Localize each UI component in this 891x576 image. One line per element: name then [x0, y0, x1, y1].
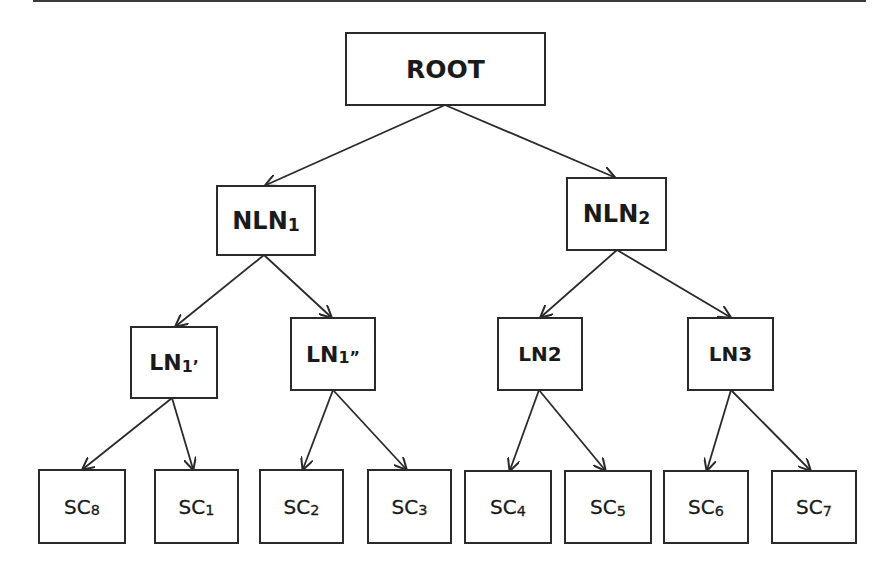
edge-ln3-sc7 — [731, 390, 810, 470]
node-nln1-label: NLN1 — [232, 207, 299, 235]
node-ln2-text: LN2 — [518, 342, 561, 366]
node-sc2-text: SC — [284, 495, 311, 519]
node-sc1-subscript: 1 — [205, 502, 214, 518]
node-nln2-text: NLN — [583, 200, 638, 228]
node-sc7: SC7 — [771, 470, 857, 544]
node-ln2: LN2 — [497, 317, 583, 391]
edge-ln2-sc4 — [510, 390, 539, 470]
node-sc5: SC5 — [564, 470, 652, 544]
node-ln1-prime-subscript: 1’ — [182, 357, 199, 376]
node-sc8-label: SC8 — [64, 495, 100, 519]
edge-nln1-ln1pp — [264, 255, 331, 317]
node-sc2-label: SC2 — [284, 495, 320, 519]
edge-ln1pp-sc2 — [303, 390, 333, 469]
node-ln1-double-prime: LN1” — [290, 317, 376, 391]
node-ln1-double-prime-text: LN — [306, 342, 338, 367]
edge-ln2-sc5 — [539, 390, 605, 470]
node-sc3-subscript: 3 — [418, 502, 427, 518]
node-ln3-label: LN3 — [709, 342, 752, 366]
node-sc6-subscript: 6 — [715, 503, 724, 519]
edge-ln3-sc6 — [707, 390, 731, 470]
node-sc4-subscript: 4 — [517, 503, 526, 519]
node-nln1-subscript: 1 — [288, 215, 300, 235]
node-ln2-label: LN2 — [518, 342, 561, 366]
edge-nln2-ln2 — [541, 250, 617, 317]
node-sc2: SC2 — [259, 469, 344, 544]
node-sc7-label: SC7 — [796, 495, 832, 519]
node-ln1-double-prime-label: LN1” — [306, 342, 360, 367]
node-sc6: SC6 — [663, 470, 749, 544]
edge-nln1-ln1p — [176, 255, 264, 326]
node-sc3-label: SC3 — [392, 495, 428, 519]
node-nln1-text: NLN — [232, 207, 287, 235]
edge-ln1p-sc8 — [83, 398, 172, 469]
node-sc8: SC8 — [38, 469, 126, 544]
node-ln3: LN3 — [687, 317, 774, 391]
node-ln1-double-prime-subscript: 1” — [339, 348, 360, 367]
node-root-text: ROOT — [406, 55, 485, 84]
node-sc7-subscript: 7 — [823, 503, 832, 519]
node-nln2: NLN2 — [566, 177, 667, 251]
edge-root-nln2 — [445, 105, 614, 177]
node-sc6-text: SC — [688, 495, 715, 519]
edge-ln1pp-sc3 — [333, 390, 406, 469]
node-ln3-text: LN3 — [709, 342, 752, 366]
node-sc4-text: SC — [490, 495, 517, 519]
node-sc4-label: SC4 — [490, 495, 526, 519]
node-sc1-text: SC — [179, 495, 206, 519]
node-sc4: SC4 — [464, 470, 552, 544]
node-sc8-text: SC — [64, 495, 91, 519]
node-sc8-subscript: 8 — [91, 502, 100, 518]
node-ln1-prime-label: LN1’ — [149, 350, 198, 375]
node-ln1-prime: LN1’ — [130, 326, 218, 399]
node-root: ROOT — [345, 32, 546, 106]
node-sc2-subscript: 2 — [310, 502, 319, 518]
node-sc1: SC1 — [154, 469, 239, 544]
node-sc5-label: SC5 — [590, 495, 626, 519]
node-ln1-prime-text: LN — [149, 350, 181, 375]
node-sc3: SC3 — [367, 469, 452, 544]
node-sc5-subscript: 5 — [617, 503, 626, 519]
node-sc5-text: SC — [590, 495, 617, 519]
edge-root-nln1 — [266, 105, 445, 185]
node-root-label: ROOT — [406, 55, 485, 84]
node-sc3-text: SC — [392, 495, 419, 519]
edge-ln1p-sc1 — [172, 398, 193, 469]
node-nln2-subscript: 2 — [638, 208, 650, 228]
node-sc6-label: SC6 — [688, 495, 724, 519]
node-nln2-label: NLN2 — [583, 200, 650, 228]
node-sc7-text: SC — [796, 495, 823, 519]
node-sc1-label: SC1 — [179, 495, 215, 519]
edge-nln2-ln3 — [617, 250, 730, 317]
node-nln1: NLN1 — [216, 185, 316, 256]
